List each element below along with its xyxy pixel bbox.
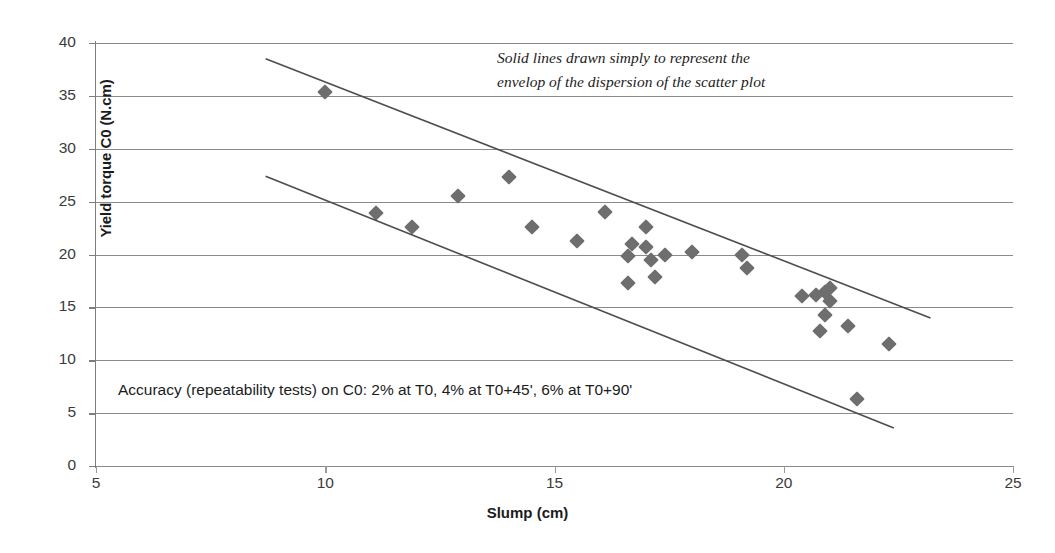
y-tick-15 xyxy=(89,307,96,308)
gridline-y-10 xyxy=(96,360,1013,361)
y-tick-5 xyxy=(89,413,96,414)
data-point xyxy=(735,247,751,263)
envelope-note-line-1: Solid lines drawn simply to represent th… xyxy=(497,46,947,70)
data-point xyxy=(794,288,810,304)
x-tick-15 xyxy=(555,466,556,473)
x-tick-25 xyxy=(1013,466,1014,473)
data-point xyxy=(405,219,421,235)
y-tick-20 xyxy=(89,255,96,256)
data-point xyxy=(570,233,586,249)
x-tick-label-5: 5 xyxy=(71,474,121,492)
y-tick-25 xyxy=(89,202,96,203)
y-tick-35 xyxy=(89,96,96,97)
y-tick-label-5: 5 xyxy=(36,403,76,421)
gridline-y-40 xyxy=(96,43,1013,44)
data-point xyxy=(648,269,664,285)
gridline-y-20 xyxy=(96,255,1013,256)
data-point xyxy=(840,319,856,335)
x-tick-label-15: 15 xyxy=(530,474,580,492)
data-point xyxy=(813,323,829,339)
y-tick-label-35: 35 xyxy=(36,86,76,104)
data-point xyxy=(849,392,865,408)
data-point xyxy=(524,219,540,235)
data-point xyxy=(597,204,613,220)
x-tick-label-25: 25 xyxy=(988,474,1038,492)
x-tick-label-20: 20 xyxy=(759,474,809,492)
y-tick-30 xyxy=(89,149,96,150)
y-tick-10 xyxy=(89,360,96,361)
y-tick-0 xyxy=(89,466,96,467)
data-point xyxy=(620,275,636,291)
x-axis-title: Slump (cm) xyxy=(0,504,1055,521)
gridline-y-15 xyxy=(96,307,1013,308)
x-tick-20 xyxy=(784,466,785,473)
x-tick-label-10: 10 xyxy=(300,474,350,492)
y-tick-label-15: 15 xyxy=(36,297,76,315)
y-axis-title: Yield torque C0 (N.cm) xyxy=(97,44,114,274)
gridline-y-5 xyxy=(96,413,1013,414)
y-tick-label-0: 0 xyxy=(36,456,76,474)
gridline-y-25 xyxy=(96,202,1013,203)
data-point xyxy=(368,205,384,221)
x-tick-10 xyxy=(325,466,326,473)
accuracy-note: Accuracy (repeatability tests) on C0: 2%… xyxy=(118,381,632,399)
envelope-note: Solid lines drawn simply to represent th… xyxy=(497,46,947,93)
data-point xyxy=(881,337,897,353)
y-tick-label-10: 10 xyxy=(36,350,76,368)
scatter-plot-figure: 0510152025303540 510152025 Yield torque … xyxy=(0,0,1055,553)
y-tick-label-25: 25 xyxy=(36,192,76,210)
x-tick-5 xyxy=(96,466,97,473)
envelope-note-line-2: envelop of the dispersion of the scatter… xyxy=(497,70,947,94)
data-point xyxy=(657,247,673,263)
gridline-y-35 xyxy=(96,96,1013,97)
data-point xyxy=(817,307,833,323)
gridline-y-30 xyxy=(96,149,1013,150)
data-point xyxy=(638,219,654,235)
data-point xyxy=(317,84,333,100)
data-point xyxy=(501,170,517,186)
data-point xyxy=(684,245,700,261)
plot-area xyxy=(96,43,1013,466)
y-tick-label-30: 30 xyxy=(36,139,76,157)
y-tick-label-20: 20 xyxy=(36,245,76,263)
y-tick-label-40: 40 xyxy=(36,33,76,51)
y-tick-40 xyxy=(89,43,96,44)
